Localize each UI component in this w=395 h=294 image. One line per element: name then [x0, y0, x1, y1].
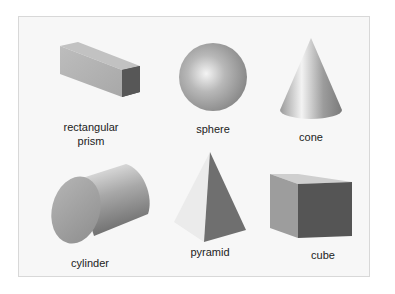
- cube-label: cube: [293, 248, 353, 262]
- rectangular-prism-label: rectangular prism: [48, 120, 134, 148]
- label-line: rectangular: [48, 120, 134, 134]
- cone-label: cone: [276, 130, 346, 144]
- sphere-shape: [178, 41, 248, 113]
- cone-shape: [278, 36, 344, 122]
- cylinder-label: cylinder: [60, 256, 120, 270]
- label-line: prism: [48, 134, 134, 148]
- sphere-label: sphere: [173, 122, 253, 136]
- rectangular-prism-shape: [58, 40, 144, 100]
- cylinder-shape: [44, 162, 150, 248]
- cube-shape: [268, 172, 354, 240]
- pyramid-label: pyramid: [180, 245, 240, 259]
- pyramid-shape: [172, 150, 248, 244]
